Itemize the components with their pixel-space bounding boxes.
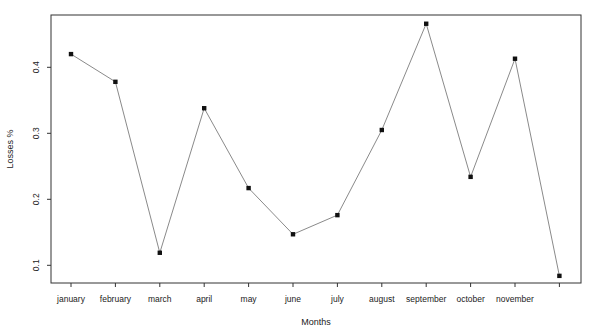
plot-box bbox=[51, 15, 581, 283]
x-tick-label: march bbox=[148, 294, 172, 304]
x-tick-label: november bbox=[496, 294, 534, 304]
series-line bbox=[71, 24, 559, 276]
x-tick-label: september bbox=[406, 294, 446, 304]
x-tick-label: july bbox=[330, 294, 345, 304]
data-point bbox=[202, 106, 206, 110]
data-point bbox=[246, 186, 250, 190]
data-point bbox=[468, 175, 472, 179]
y-tick-label: 0.3 bbox=[31, 127, 41, 139]
data-point bbox=[335, 213, 339, 217]
x-tick-label: may bbox=[241, 294, 258, 304]
line-chart: 0.10.20.30.4 januaryfebruarymarchaprilma… bbox=[0, 0, 590, 332]
x-tick-label: april bbox=[196, 294, 212, 304]
x-tick-label: january bbox=[56, 294, 86, 304]
data-point bbox=[424, 22, 428, 26]
data-point bbox=[158, 251, 162, 255]
y-axis-title: Losses % bbox=[5, 129, 15, 168]
y-tick-label: 0.2 bbox=[31, 193, 41, 205]
x-axis: januaryfebruarymarchaprilmayjunejulyaugu… bbox=[56, 283, 559, 304]
data-point bbox=[380, 128, 384, 132]
x-tick-label: february bbox=[100, 294, 132, 304]
data-point bbox=[113, 80, 117, 84]
x-tick-label: october bbox=[456, 294, 485, 304]
y-tick-label: 0.4 bbox=[31, 61, 41, 73]
x-tick-label: august bbox=[369, 294, 395, 304]
data-point bbox=[513, 57, 517, 61]
data-point bbox=[557, 274, 561, 278]
data-point bbox=[291, 232, 295, 236]
data-point bbox=[69, 52, 73, 56]
y-axis: 0.10.20.30.4 bbox=[31, 61, 51, 271]
y-tick-label: 0.1 bbox=[31, 259, 41, 271]
x-axis-title: Months bbox=[301, 317, 331, 327]
x-tick-label: june bbox=[284, 294, 301, 304]
data-markers bbox=[69, 22, 562, 279]
